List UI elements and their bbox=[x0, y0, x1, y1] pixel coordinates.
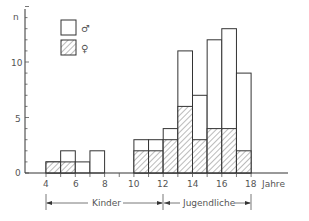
bar-female bbox=[236, 151, 251, 173]
legend-label-female: ♀ bbox=[81, 43, 88, 54]
y-axis-label: n bbox=[13, 12, 19, 22]
x-tick-label-4: 4 bbox=[43, 179, 49, 189]
bar-female bbox=[163, 140, 178, 173]
bar-total bbox=[75, 162, 90, 173]
x-tick-label-6: 6 bbox=[73, 179, 79, 189]
x-tick-label-16: 16 bbox=[216, 179, 228, 189]
legend-swatch-male bbox=[61, 20, 76, 35]
x-tick-label-10: 10 bbox=[128, 179, 140, 189]
bar-female bbox=[134, 151, 149, 173]
x-tick-label-8: 8 bbox=[102, 179, 108, 189]
range-annotation-youth: Jugendliche bbox=[163, 194, 251, 210]
bar-female bbox=[149, 151, 164, 173]
y-axis: n 10 5 0 bbox=[11, 7, 29, 179]
bar-female bbox=[222, 129, 237, 173]
legend-swatch-female bbox=[61, 40, 76, 55]
legend: ♂ ♀ bbox=[61, 20, 90, 55]
bars-group bbox=[46, 29, 251, 173]
y-tick-label-0: 0 bbox=[15, 168, 21, 178]
bar-female bbox=[207, 129, 222, 173]
y-tick-label-5: 5 bbox=[15, 114, 21, 124]
x-tick-label-18: 18 bbox=[245, 179, 257, 189]
bar-female bbox=[178, 106, 193, 173]
range-annotation-children: Kinder bbox=[46, 194, 163, 210]
x-tick-label-14: 14 bbox=[187, 179, 199, 189]
x-axis-label: Jahre bbox=[261, 179, 285, 189]
bar-female bbox=[61, 162, 76, 173]
bar-female bbox=[193, 140, 208, 173]
legend-label-male: ♂ bbox=[81, 23, 90, 34]
y-tick-label-10: 10 bbox=[11, 58, 23, 68]
x-axis: 4 6 8 10 12 14 16 18 Jahre bbox=[25, 173, 288, 189]
bar-female bbox=[46, 162, 61, 173]
bar-total bbox=[90, 151, 105, 173]
histogram-chart: n 10 5 0 4 6 8 10 12 14 16 18 Jahre ♂ ♀ … bbox=[0, 0, 309, 221]
range-label-youth: Jugendliche bbox=[182, 198, 236, 208]
x-tick-label-12: 12 bbox=[157, 179, 168, 189]
range-label-children: Kinder bbox=[92, 198, 121, 208]
